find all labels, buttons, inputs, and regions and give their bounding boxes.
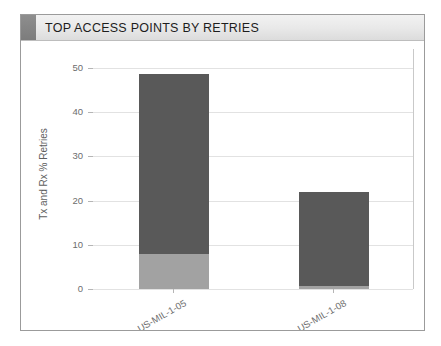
x-tick-label: US-MIL-1-05 — [135, 297, 188, 330]
panel-accent-block — [21, 15, 36, 40]
bar-segment[interactable] — [139, 254, 209, 289]
bar-chart: 01020304050 US-MIL-1-05US-MIL-1-08 Tx an… — [21, 41, 424, 330]
screenshot-root: TOP ACCESS POINTS BY RETRIES 01020304050… — [0, 0, 441, 346]
x-axis-tick-labels: US-MIL-1-05US-MIL-1-08 — [135, 297, 348, 330]
chart-tick-marks — [88, 68, 334, 293]
x-tick-label: US-MIL-1-08 — [295, 297, 348, 330]
bar-segment[interactable] — [299, 286, 369, 289]
panel-title: TOP ACCESS POINTS BY RETRIES — [36, 15, 424, 40]
y-tick-label: 20 — [72, 195, 83, 206]
chart-bars — [139, 74, 369, 289]
y-tick-label: 10 — [72, 239, 83, 250]
chart-panel: TOP ACCESS POINTS BY RETRIES 01020304050… — [20, 14, 425, 331]
panel-header: TOP ACCESS POINTS BY RETRIES — [21, 15, 424, 41]
y-axis-title: Tx and Rx % Retries — [38, 128, 49, 220]
y-axis-title-text: Tx and Rx % Retries — [38, 128, 49, 220]
bar-segment[interactable] — [139, 74, 209, 253]
chart-area: 01020304050 US-MIL-1-05US-MIL-1-08 Tx an… — [21, 41, 424, 330]
y-axis-tick-labels: 01020304050 — [72, 62, 83, 294]
bar-segment[interactable] — [299, 192, 369, 286]
y-tick-label: 0 — [78, 283, 83, 294]
y-tick-label: 30 — [72, 150, 83, 161]
y-tick-label: 40 — [72, 106, 83, 117]
y-tick-label: 50 — [72, 62, 83, 73]
